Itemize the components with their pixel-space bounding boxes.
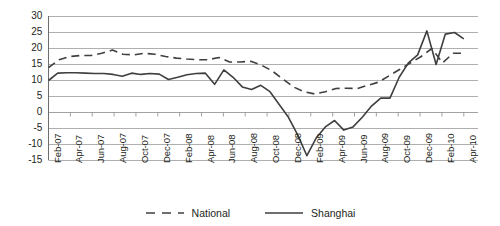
x-axis-tick-label: Jun-08	[227, 135, 237, 163]
chart-container: 302520151050-5-10-15 Feb-07Apr-07Jun-07A…	[0, 0, 500, 226]
y-axis-tick-label: -5	[2, 123, 42, 133]
chart-legend: National Shanghai	[0, 203, 500, 223]
legend-label-national: National	[192, 207, 231, 219]
y-axis-tick-label: 30	[2, 11, 42, 21]
x-axis-tick-label: Dec-09	[424, 133, 434, 163]
x-axis-tick-label: Feb-10	[446, 133, 456, 163]
legend-swatch-dashed-icon	[145, 209, 185, 217]
x-axis-tick-label: Feb-08	[184, 133, 194, 163]
x-axis-tick-label: Aug-07	[118, 133, 128, 163]
x-axis-tick-label: Feb-07	[53, 133, 63, 163]
x-axis-tick-label: Oct-09	[402, 135, 412, 163]
legend-item-shanghai: Shanghai	[264, 207, 355, 219]
chart-plot-area	[0, 0, 500, 226]
x-axis-tick-label: Aug-08	[249, 133, 259, 163]
y-axis-tick-label: 10	[2, 75, 42, 85]
x-axis-tick-label: Apr-08	[206, 135, 216, 163]
x-axis-tick-label: Dec-07	[162, 133, 172, 163]
y-axis-tick-label: 0	[2, 107, 42, 117]
x-axis-tick-label: Apr-07	[74, 135, 84, 163]
legend-item-national: National	[145, 207, 231, 219]
legend-label-shanghai: Shanghai	[311, 207, 355, 219]
x-axis-tick-label: Oct-08	[271, 135, 281, 163]
y-axis-tick-label: 15	[2, 59, 42, 69]
x-axis-ticks	[49, 113, 464, 117]
x-axis-tick-label: Jun-09	[359, 135, 369, 163]
x-axis-tick-label: Apr-09	[337, 135, 347, 163]
x-axis-tick-label: Apr-10	[468, 135, 478, 163]
x-axis-tick-label: Aug-09	[380, 133, 390, 163]
y-axis-tick-label: -10	[2, 139, 42, 149]
y-axis-tick-label: 20	[2, 43, 42, 53]
y-axis-tick-label: 5	[2, 91, 42, 101]
y-axis-tick-label: 25	[2, 27, 42, 37]
gridlines	[49, 17, 479, 161]
y-axis-tick-label: -15	[2, 155, 42, 165]
x-axis-tick-label: Dec-08	[293, 133, 303, 163]
x-axis-tick-label: Oct-07	[140, 135, 150, 163]
x-axis-tick-label: Jun-07	[96, 135, 106, 163]
x-axis-tick-label: Feb-09	[315, 133, 325, 163]
legend-swatch-solid-icon	[264, 209, 304, 217]
